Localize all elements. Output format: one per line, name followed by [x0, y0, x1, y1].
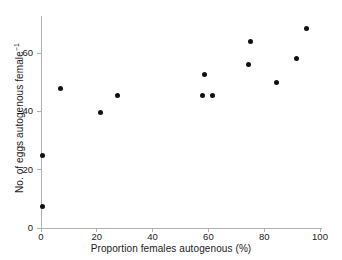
data-point — [115, 93, 120, 98]
y-axis-label: No. of eggs autogenous female−1 — [14, 18, 26, 218]
data-point — [294, 56, 299, 61]
data-point — [304, 26, 309, 31]
data-point — [202, 72, 207, 77]
x-tick-label: 80 — [249, 232, 279, 242]
data-point — [98, 110, 103, 115]
x-tick-label: 60 — [193, 232, 223, 242]
y-axis-label-exponent: −1 — [13, 43, 20, 51]
data-point — [210, 93, 215, 98]
x-tick-label: 20 — [82, 232, 112, 242]
data-point — [246, 62, 251, 67]
data-point — [274, 80, 279, 85]
data-point — [248, 39, 253, 44]
scatter-plot-figure: 0204060801000204060 Proportion females a… — [0, 0, 342, 260]
data-point — [200, 93, 205, 98]
x-tick-label: 100 — [305, 232, 335, 242]
data-point — [40, 204, 45, 209]
plot-data-area — [41, 18, 320, 228]
data-point — [58, 86, 63, 91]
x-tick-label: 0 — [26, 232, 56, 242]
data-point — [40, 153, 45, 158]
y-axis-label-text: No. of eggs autogenous female — [14, 51, 25, 193]
y-tick-label: 0 — [9, 223, 33, 233]
x-axis-label: Proportion females autogenous (%) — [0, 243, 342, 255]
x-tick-label: 40 — [138, 232, 168, 242]
